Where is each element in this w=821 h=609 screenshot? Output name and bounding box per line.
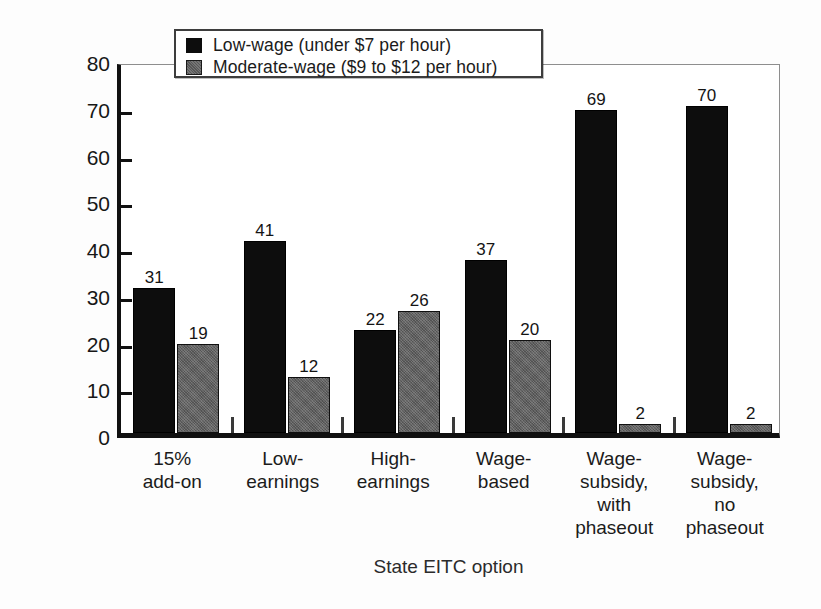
y-tick-label-70: 70 bbox=[50, 99, 110, 123]
bar-moderate-wage: 2 bbox=[730, 424, 772, 433]
bar-moderate-wage: 26 bbox=[398, 311, 440, 433]
chart-figure: Percentage 80706050403020100 31194112222… bbox=[0, 0, 821, 609]
y-tick-label-0: 0 bbox=[50, 426, 110, 450]
bar-low-wage: 41 bbox=[244, 241, 286, 433]
x-tick-label: Low- earnings bbox=[246, 447, 319, 493]
bar-value-label: 69 bbox=[587, 91, 606, 108]
bar-moderate-wage: 19 bbox=[177, 344, 219, 433]
x-tick-label: Wage- based bbox=[476, 447, 531, 493]
bar-group: 702 bbox=[686, 65, 772, 433]
bar-low-wage: 22 bbox=[354, 330, 396, 433]
y-tick-label-30: 30 bbox=[50, 286, 110, 310]
bar-moderate-wage: 12 bbox=[288, 377, 330, 433]
y-tick-label-10: 10 bbox=[50, 379, 110, 403]
bar-group: 2226 bbox=[354, 65, 440, 433]
y-axis-title: Percentage bbox=[0, 0, 44, 609]
bar-low-wage: 69 bbox=[575, 110, 617, 433]
legend-swatch-moderate-wage bbox=[186, 60, 202, 75]
x-tick-mark bbox=[673, 417, 676, 433]
bar-value-label: 70 bbox=[697, 87, 716, 104]
x-tick-label: Wage- subsidy, with phaseout bbox=[575, 447, 653, 539]
x-axis-title: State EITC option bbox=[117, 556, 780, 578]
y-tick-mark-60 bbox=[121, 159, 132, 162]
bar-moderate-wage: 2 bbox=[619, 424, 661, 433]
y-tick-label-40: 40 bbox=[50, 239, 110, 263]
bar-value-label: 12 bbox=[299, 358, 318, 375]
bar-value-label: 2 bbox=[636, 405, 645, 422]
plot-area: 3119411222263720692702 bbox=[117, 64, 780, 438]
bar-value-label: 37 bbox=[476, 241, 495, 258]
bar-value-label: 26 bbox=[410, 292, 429, 309]
x-tick-mark bbox=[562, 417, 565, 433]
y-tick-label-20: 20 bbox=[50, 333, 110, 357]
y-tick-mark-30 bbox=[121, 299, 132, 302]
y-tick-label-80: 80 bbox=[50, 52, 110, 76]
bar-value-label: 31 bbox=[145, 269, 164, 286]
x-tick-mark bbox=[341, 417, 344, 433]
legend-label-moderate-wage: Moderate-wage ($9 to $12 per hour) bbox=[213, 57, 498, 78]
bar-value-label: 41 bbox=[255, 222, 274, 239]
bar-value-label: 2 bbox=[746, 405, 755, 422]
x-tick-label: Wage- subsidy, no phaseout bbox=[686, 447, 764, 539]
legend-label-low-wage: Low-wage (under $7 per hour) bbox=[213, 35, 451, 56]
y-axis-tick-labels: 80706050403020100 bbox=[45, 0, 110, 609]
bar-moderate-wage: 20 bbox=[509, 340, 551, 434]
bar-low-wage: 31 bbox=[133, 288, 175, 433]
x-tick-mark bbox=[231, 417, 234, 433]
legend-item-moderate-wage: Moderate-wage ($9 to $12 per hour) bbox=[186, 56, 533, 78]
y-tick-mark-40 bbox=[121, 252, 132, 255]
legend-item-low-wage: Low-wage (under $7 per hour) bbox=[186, 34, 533, 56]
y-tick-mark-70 bbox=[121, 112, 132, 115]
y-tick-label-60: 60 bbox=[50, 146, 110, 170]
bar-value-label: 20 bbox=[520, 321, 539, 338]
y-tick-mark-10 bbox=[121, 392, 132, 395]
y-tick-mark-20 bbox=[121, 346, 132, 349]
x-axis-tick-labels: 15% add-onLow- earningsHigh- earningsWag… bbox=[117, 447, 780, 547]
bar-low-wage: 37 bbox=[465, 260, 507, 433]
x-tick-label: 15% add-on bbox=[143, 447, 202, 493]
x-tick-label: High- earnings bbox=[357, 447, 430, 493]
legend-swatch-low-wage bbox=[186, 38, 202, 53]
y-tick-label-50: 50 bbox=[50, 192, 110, 216]
bar-group: 3720 bbox=[465, 65, 551, 433]
chart-legend: Low-wage (under $7 per hour) Moderate-wa… bbox=[174, 29, 543, 78]
bar-group: 692 bbox=[575, 65, 661, 433]
bar-low-wage: 70 bbox=[686, 106, 728, 433]
bar-value-label: 22 bbox=[366, 311, 385, 328]
plot-inner: 3119411222263720692702 bbox=[121, 65, 779, 433]
bar-value-label: 19 bbox=[189, 325, 208, 342]
y-tick-mark-50 bbox=[121, 205, 132, 208]
x-tick-mark bbox=[452, 417, 455, 433]
bar-group: 3119 bbox=[133, 65, 219, 433]
bar-group: 4112 bbox=[244, 65, 330, 433]
